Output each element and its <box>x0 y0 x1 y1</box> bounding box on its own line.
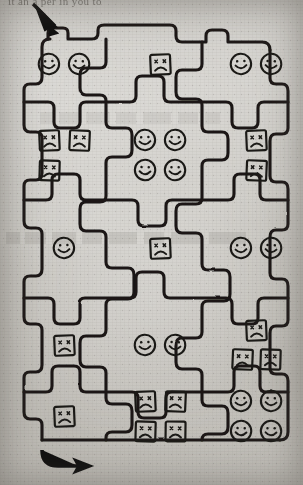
smiley-face-icon <box>228 418 255 449</box>
exit-arrow <box>42 450 92 473</box>
sad-face-icon <box>229 346 255 376</box>
smiley-face-icon <box>161 126 188 157</box>
smiley-face-icon <box>257 50 284 81</box>
smiley-face-icon <box>131 126 158 157</box>
entry-arrow <box>33 4 57 35</box>
sad-face-icon <box>257 346 283 376</box>
smiley-face-icon <box>258 418 284 448</box>
smiley-face-icon <box>65 50 92 81</box>
sad-face-icon <box>66 127 92 157</box>
smiley-face-icon <box>50 234 77 265</box>
sad-face-icon <box>36 127 62 157</box>
smiley-face-icon <box>227 387 254 418</box>
sad-face-icon <box>162 388 188 418</box>
maze-walls <box>24 25 288 440</box>
sad-face-icon <box>243 317 269 347</box>
smiley-face-icon <box>162 157 188 187</box>
smiley-face-icon <box>257 387 284 418</box>
smiley-face-icon <box>161 331 188 362</box>
sad-face-icon <box>51 403 77 433</box>
sad-face-icon <box>132 388 158 418</box>
sad-face-icon <box>51 332 77 362</box>
sad-face-icon <box>162 418 187 447</box>
sad-face-icon <box>243 127 269 157</box>
smiley-face-icon <box>131 331 158 362</box>
smiley-face-icon <box>227 234 254 265</box>
sad-face-icon <box>132 418 158 448</box>
smiley-face-icon <box>257 234 284 265</box>
smiley-face-icon <box>227 50 254 81</box>
sad-face-icon <box>147 235 173 265</box>
smiley-face-icon <box>132 157 159 188</box>
smiley-face-icon <box>35 50 62 81</box>
puzzle-sheet: it an a per in you to <box>0 0 303 485</box>
sad-face-icon <box>243 157 269 187</box>
sad-face-icon <box>147 51 173 81</box>
sad-face-icon <box>36 157 62 187</box>
